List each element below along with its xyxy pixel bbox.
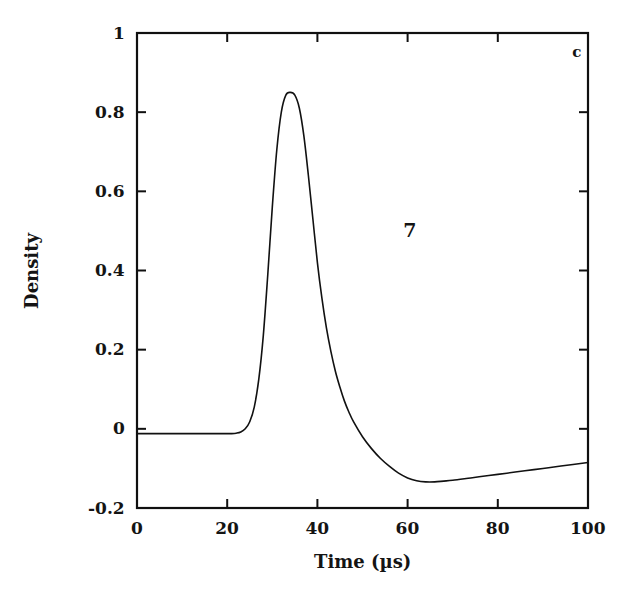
y-tick-label: 0.2 bbox=[95, 341, 125, 358]
y-axis-title: Density bbox=[23, 233, 41, 309]
y-tick-label: 0.8 bbox=[95, 104, 125, 121]
x-axis-title: Time (µs) bbox=[314, 553, 411, 571]
y-tick-label: 1 bbox=[113, 25, 125, 42]
y-tick-label: 0 bbox=[113, 420, 125, 437]
figure-container: 1 0.8 0.6 0.4 0.2 0 -0.2 0 20 40 60 80 1… bbox=[0, 0, 638, 597]
x-tick-label: 100 bbox=[570, 520, 606, 537]
x-tick-label: 20 bbox=[215, 520, 239, 537]
x-tick-label: 0 bbox=[131, 520, 143, 537]
y-tick-label: 0.4 bbox=[95, 262, 125, 279]
curve-number-label: 7 bbox=[403, 221, 416, 240]
y-tick-label: 0.6 bbox=[95, 183, 125, 200]
y-tick-label: -0.2 bbox=[88, 500, 125, 517]
y-axis-ticks-left bbox=[137, 112, 146, 429]
x-tick-label: 80 bbox=[486, 520, 510, 537]
x-tick-label: 60 bbox=[396, 520, 420, 537]
y-axis-ticks-right bbox=[579, 112, 588, 429]
data-series-group bbox=[137, 92, 588, 482]
density-curve bbox=[137, 92, 588, 482]
x-tick-label: 40 bbox=[305, 520, 329, 537]
x-axis-ticks-bottom bbox=[227, 499, 498, 508]
x-axis-ticks-top bbox=[227, 33, 498, 42]
panel-letter-label: c bbox=[572, 45, 581, 60]
